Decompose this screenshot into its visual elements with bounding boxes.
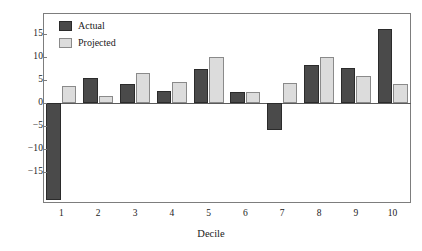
bar-actual-decile-9 [341,68,356,103]
bar-actual-decile-5 [194,69,209,103]
bar-projected-decile-8 [320,57,335,103]
x-tick-label: 9 [353,208,358,218]
x-tick-label: 4 [169,208,174,218]
y-tick-mark [43,80,47,81]
bar-projected-decile-2 [99,96,114,103]
bar-actual-decile-2 [83,78,98,103]
bar-projected-decile-3 [136,73,151,103]
bar-actual-decile-8 [304,65,319,103]
bar-actual-decile-3 [120,84,135,103]
bar-actual-decile-10 [378,29,393,103]
y-tick-label: −5 [17,121,43,131]
chart-legend: Actual Projected [59,18,116,52]
bar-projected-decile-9 [356,76,371,103]
bar-projected-decile-10 [393,84,408,103]
bar-projected-decile-6 [246,92,261,104]
y-tick-label: 5 [17,75,43,85]
y-tick-label: −15 [17,167,43,177]
x-tick-label: 8 [317,208,322,218]
y-tick-mark [43,149,47,150]
y-tick-mark [43,34,47,35]
x-tick-label: 1 [59,208,64,218]
legend-item-actual: Actual [59,18,116,33]
x-tick-label: 5 [206,208,211,218]
legend-swatch-actual-icon [59,21,72,31]
legend-item-projected: Projected [59,35,116,50]
bar-chart: 151050−5−10−15 12345678910 Decile Actual… [0,0,422,251]
y-axis: 151050−5−10−15 [12,0,43,251]
bar-actual-decile-7 [267,103,282,130]
bar-projected-decile-4 [172,82,187,103]
x-axis-title: Decile [0,228,422,239]
bar-actual-decile-6 [230,92,245,103]
y-tick-mark [43,103,47,104]
x-tick-label: 3 [133,208,138,218]
x-tick-label: 10 [388,208,398,218]
legend-label-actual: Actual [78,21,105,31]
y-tick-mark [43,172,47,173]
bar-projected-decile-5 [209,57,224,103]
x-tick-label: 6 [243,208,248,218]
y-tick-label: 10 [17,52,43,62]
y-tick-mark [43,57,47,58]
bar-projected-decile-1 [62,86,77,103]
x-tick-label: 2 [96,208,101,218]
bar-actual-decile-1 [46,103,61,200]
y-tick-mark [43,126,47,127]
y-tick-label: 0 [17,98,43,108]
bar-actual-decile-4 [157,91,172,103]
y-tick-label: −10 [17,144,43,154]
legend-label-projected: Projected [78,38,116,48]
y-tick-label: 15 [17,29,43,39]
bar-projected-decile-7 [283,83,298,103]
legend-swatch-projected-icon [59,38,72,48]
x-tick-label: 7 [280,208,285,218]
